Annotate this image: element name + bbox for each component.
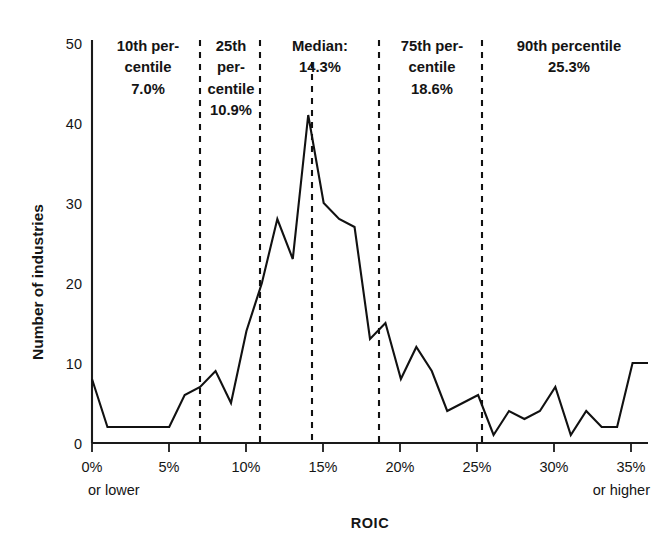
- annotation-p90-line2: 25.3%: [484, 57, 654, 78]
- x-tick-label-20: 20%: [365, 458, 435, 477]
- x-tick-label-10: 10%: [211, 458, 281, 477]
- annotation-p10: 10th per- centile 7.0%: [98, 36, 198, 100]
- x-axis-note-right: or higher: [560, 481, 650, 500]
- y-tick-label-40: 40: [42, 115, 82, 134]
- annotation-p75-line1: 75th per-: [382, 36, 482, 57]
- x-tick-label-5: 5%: [134, 458, 204, 477]
- y-tick-label-0: 0: [42, 435, 82, 454]
- y-axis-title: Number of industries: [28, 204, 48, 360]
- x-tick-label-25: 25%: [442, 458, 512, 477]
- x-axis-ticks: [92, 443, 631, 452]
- data-series-line: [92, 115, 648, 435]
- annotation-p75: 75th per- centile 18.6%: [382, 36, 482, 100]
- annotation-p75-line2: centile: [382, 57, 482, 78]
- annotation-p25-line4: 10.9%: [204, 100, 258, 121]
- annotation-p25: 25th per- centile 10.9%: [204, 36, 258, 122]
- annotation-p90-line1: 90th percentile: [484, 36, 654, 57]
- annotation-p25-line2: per-: [204, 57, 258, 78]
- y-tick-label-50: 50: [42, 35, 82, 54]
- y-tick-label-10: 10: [42, 355, 82, 374]
- x-axis-title: ROIC: [270, 514, 470, 533]
- x-tick-label-0: 0%: [57, 458, 127, 477]
- annotation-median-line2: 14.3%: [262, 57, 378, 78]
- annotation-p10-line1: 10th per-: [98, 36, 198, 57]
- y-tick-label-30: 30: [42, 195, 82, 214]
- annotation-p10-line3: 7.0%: [98, 79, 198, 100]
- annotation-p25-line3: centile: [204, 79, 258, 100]
- annotation-p75-line3: 18.6%: [382, 79, 482, 100]
- chart-figure: 50 40 30 20 10 0 Number of industries 0%…: [0, 0, 672, 548]
- annotation-median-line1: Median:: [262, 36, 378, 57]
- annotation-p10-line2: centile: [98, 57, 198, 78]
- x-tick-label-15: 15%: [288, 458, 358, 477]
- x-tick-label-30: 30%: [519, 458, 589, 477]
- y-tick-label-20: 20: [42, 275, 82, 294]
- annotation-p25-line1: 25th: [204, 36, 258, 57]
- annotation-p90: 90th percentile 25.3%: [484, 36, 654, 79]
- annotation-median: Median: 14.3%: [262, 36, 378, 79]
- x-tick-label-35: 35%: [596, 458, 666, 477]
- x-axis-note-left: or lower: [88, 481, 178, 500]
